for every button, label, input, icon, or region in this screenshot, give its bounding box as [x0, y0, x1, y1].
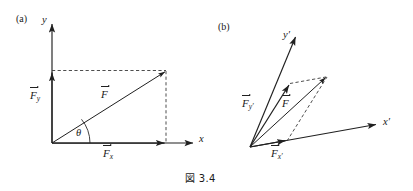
panel-b-vector-Fx-prime-label: Fx′ — [271, 148, 283, 160]
panel-a-Fx-subscript: x — [110, 152, 113, 161]
vector-accent-F-a: F — [101, 89, 108, 100]
panel-a-angle-arc — [82, 119, 91, 143]
vector-accent-Fx-a: F — [103, 148, 110, 159]
panel-b-dashed-upper — [290, 77, 327, 84]
panel-a-tag: (a) — [16, 14, 27, 24]
panel-b-y-prime-axis-label: y′ — [283, 30, 290, 41]
panel-a-vector-Fy-label: Fy — [30, 90, 40, 102]
panel-a-drawing — [52, 24, 193, 143]
panel-b-Fy-prime-subscript: y′ — [249, 102, 254, 111]
figure-drawing-canvas — [0, 0, 413, 191]
panel-a-vector-F-label: F — [101, 89, 108, 100]
panel-a-y-axis-label: y — [42, 15, 47, 26]
vector-accent-Fyp-b: F — [242, 98, 249, 109]
panel-b-y-prime-axis — [250, 37, 296, 147]
panel-b-tag: (b) — [218, 22, 230, 32]
panel-b-vector-F-label: F — [282, 98, 289, 109]
vector-accent-F-b: F — [282, 98, 289, 109]
panel-a-vector-Fx-label: Fx — [103, 148, 113, 160]
figure-3-4: (a) y x F Fy Fx θ (b) y′ x′ F Fy′ Fx′ 図 … — [0, 0, 413, 191]
vector-accent-Fxp-b: F — [271, 148, 278, 159]
figure-caption: 図 3.4 — [185, 170, 216, 185]
panel-b-x-prime-mark: ′ — [388, 116, 390, 127]
panel-b-vector-Fy-prime-label: Fy′ — [242, 98, 254, 110]
panel-b-dashed-lower — [287, 77, 327, 141]
vector-accent-Fy-a: F — [30, 90, 37, 101]
panel-a-angle-label: θ — [76, 128, 81, 139]
panel-b-Fx-prime-subscript: x′ — [278, 152, 283, 161]
panel-b-y-prime-mark: ′ — [288, 29, 290, 40]
panel-a-x-axis-label: x — [199, 134, 204, 145]
panel-b-x-prime-axis-label: x′ — [383, 117, 390, 128]
panel-b-drawing — [250, 37, 376, 147]
panel-a-Fy-subscript: y — [37, 94, 40, 103]
panel-a-vector-F — [52, 72, 165, 143]
